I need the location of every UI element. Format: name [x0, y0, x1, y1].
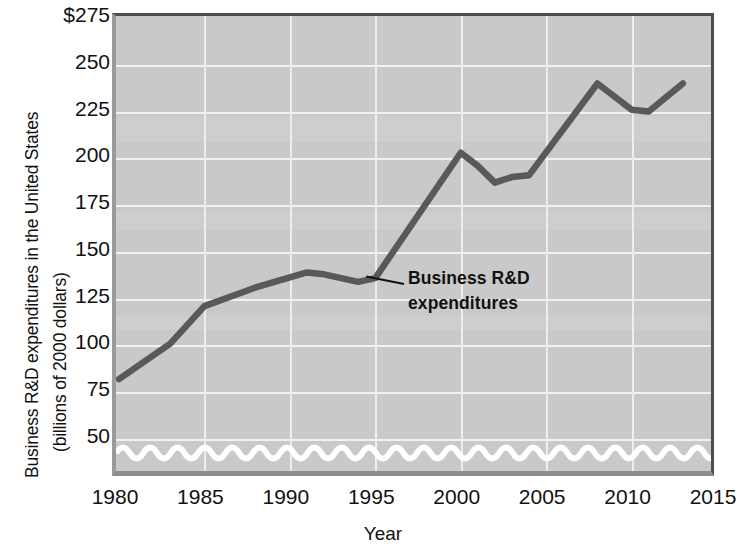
x-tick-2005: 2005 [519, 486, 566, 507]
y-tick-250: 250 [18, 51, 110, 72]
y-tick-75: 75 [18, 378, 110, 399]
x-axis-title-text: Year [364, 523, 402, 544]
y-tick-200: 200 [18, 144, 110, 165]
plot-area [112, 13, 714, 476]
series-callout-label: Business R&D expenditures [408, 266, 530, 317]
x-tick-1990: 1990 [262, 486, 309, 507]
y-tick-275: $275 [18, 4, 110, 25]
data-line [119, 83, 683, 379]
x-tick-1985: 1985 [177, 486, 224, 507]
x-tick-1980: 1980 [92, 486, 139, 507]
chart-figure: Business R&D expenditures in the United … [0, 0, 742, 556]
y-tick-100: 100 [18, 331, 110, 352]
x-tick-1995: 1995 [348, 486, 395, 507]
y-axis-tick-labels: $2752502252001751501251007550 [18, 0, 110, 500]
x-axis-title: Year [0, 523, 742, 545]
plot-inner [116, 16, 711, 471]
y-tick-150: 150 [18, 238, 110, 259]
x-tick-2000: 2000 [433, 486, 480, 507]
x-tick-2015: 2015 [690, 486, 737, 507]
series-line-business-rd [116, 16, 714, 476]
callout-line1: Business R&D [408, 266, 530, 291]
x-axis-tick-labels: 19801985199019952000200520102015 [0, 486, 742, 516]
x-tick-2010: 2010 [604, 486, 651, 507]
y-tick-125: 125 [18, 285, 110, 306]
y-tick-225: 225 [18, 98, 110, 119]
callout-line2: expenditures [408, 291, 530, 316]
y-tick-50: 50 [18, 425, 110, 446]
y-tick-175: 175 [18, 191, 110, 212]
axis-break-wave [116, 439, 714, 465]
